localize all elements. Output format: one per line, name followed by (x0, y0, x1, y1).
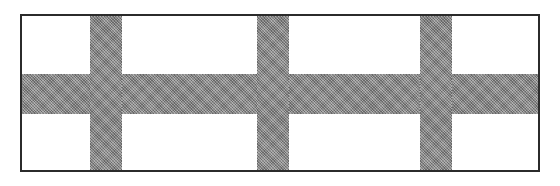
vertical-band-1 (90, 16, 122, 172)
cell-row1-col4 (452, 16, 540, 74)
cell-row1-col3 (289, 16, 420, 74)
cell-row2-col4 (452, 114, 540, 172)
cell-row2-col3 (289, 114, 420, 172)
diagram-frame (20, 14, 540, 172)
cell-row2-col1 (22, 114, 90, 172)
vertical-band-2 (257, 16, 289, 172)
cell-row2-col2 (122, 114, 257, 172)
vertical-band-3 (420, 16, 452, 172)
cell-row1-col2 (122, 16, 257, 74)
figure-canvas (0, 0, 560, 186)
cell-row1-col1 (22, 16, 90, 74)
